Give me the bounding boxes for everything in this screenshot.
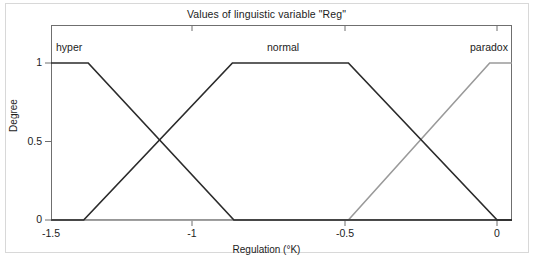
x-tick-label-neg1-5: -1.5 (31, 227, 71, 239)
x-tick-label-neg1: -1 (172, 227, 212, 239)
set-label-hyper: hyper (56, 41, 82, 53)
set-label-paradox: paradox (470, 41, 508, 53)
x-axis-ticks (192, 25, 497, 226)
x-tick-label-neg0-5: -0.5 (325, 227, 365, 239)
y-axis-ticks (45, 63, 51, 220)
series-line-paradox (51, 63, 512, 220)
series-line-normal (51, 63, 512, 220)
y-tick-label-0: 0 (12, 213, 42, 225)
figure-container: Values of linguistic variable "Reg" 1 0.… (0, 0, 533, 273)
series-line-hyper (51, 63, 512, 220)
y-tick-label-1: 1 (12, 56, 42, 68)
set-label-normal: normal (267, 41, 299, 53)
y-axis-title: Degree (8, 86, 19, 146)
x-tick-label-0: 0 (477, 227, 517, 239)
x-axis-title: Regulation (°K) (0, 244, 533, 255)
